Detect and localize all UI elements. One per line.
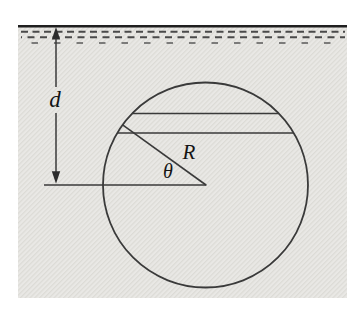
- depth-label: d: [49, 87, 61, 112]
- physics-diagram-svg: d R θ: [0, 0, 358, 323]
- figure-container: d R θ: [0, 0, 358, 323]
- angle-label: θ: [163, 160, 173, 182]
- radius-label: R: [182, 140, 196, 164]
